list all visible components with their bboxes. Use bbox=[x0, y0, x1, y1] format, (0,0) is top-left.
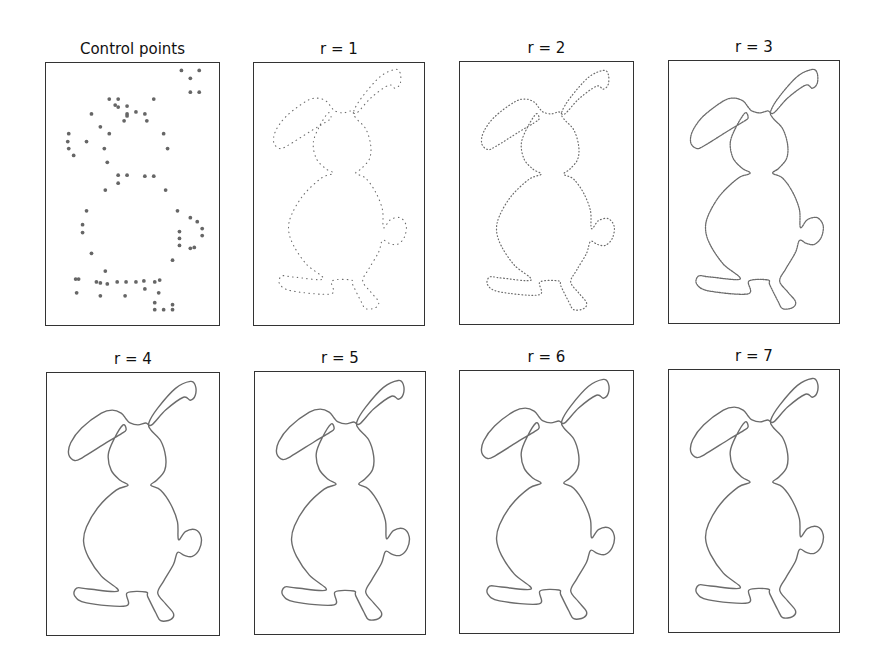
control-point bbox=[90, 112, 94, 116]
control-point bbox=[85, 140, 89, 144]
control-point bbox=[103, 188, 107, 192]
plot-frame bbox=[45, 62, 220, 326]
control-point bbox=[157, 291, 161, 295]
control-point bbox=[125, 114, 129, 118]
control-point bbox=[116, 181, 120, 185]
plot-frame bbox=[253, 62, 425, 326]
plot-frame bbox=[46, 372, 220, 636]
panel-r5: r = 5 bbox=[254, 349, 426, 635]
control-point bbox=[195, 220, 199, 224]
control-point bbox=[142, 279, 146, 283]
control-point bbox=[105, 282, 109, 286]
control-point bbox=[125, 104, 129, 108]
control-point bbox=[122, 119, 126, 123]
panel-control-points: Control points bbox=[45, 40, 220, 326]
control-point bbox=[81, 231, 85, 235]
rabbit-curve-plot bbox=[460, 62, 633, 324]
control-point bbox=[102, 147, 106, 151]
rabbit-curve-plot bbox=[669, 61, 839, 323]
panel-title: r = 7 bbox=[668, 347, 840, 365]
rabbit-curve-plot bbox=[460, 371, 633, 633]
rabbit-outline bbox=[273, 69, 406, 309]
control-point bbox=[90, 251, 94, 255]
control-point bbox=[81, 223, 85, 227]
panel-title: r = 2 bbox=[459, 39, 634, 57]
control-point bbox=[67, 132, 71, 136]
control-point bbox=[178, 244, 182, 248]
rabbit-outline bbox=[481, 379, 614, 619]
control-point bbox=[98, 281, 102, 285]
panel-r1: r = 1 bbox=[253, 40, 425, 326]
control-point bbox=[75, 291, 79, 295]
control-point bbox=[188, 90, 192, 94]
control-point bbox=[152, 174, 156, 178]
panel-r2: r = 2 bbox=[459, 39, 634, 325]
rabbit-curve-plot bbox=[254, 63, 424, 325]
control-point bbox=[95, 280, 99, 284]
rabbit-outline bbox=[276, 380, 409, 620]
control-point bbox=[200, 234, 204, 238]
control-point bbox=[125, 173, 129, 177]
control-point bbox=[171, 303, 175, 307]
rabbit-outline bbox=[481, 70, 614, 310]
control-point bbox=[153, 308, 157, 312]
control-point bbox=[176, 209, 180, 213]
control-point bbox=[143, 112, 147, 116]
rabbit-curve-plot bbox=[255, 372, 425, 634]
panel-title: Control points bbox=[45, 40, 220, 58]
plot-frame bbox=[668, 369, 840, 633]
control-point bbox=[103, 269, 107, 273]
panel-title: r = 3 bbox=[668, 38, 840, 56]
control-point bbox=[197, 69, 201, 73]
control-point bbox=[162, 308, 166, 312]
control-point bbox=[166, 147, 170, 151]
control-point bbox=[188, 216, 192, 220]
control-point bbox=[115, 280, 119, 284]
control-point bbox=[145, 119, 149, 123]
control-point bbox=[152, 97, 156, 101]
panel-title: r = 1 bbox=[253, 40, 425, 58]
panel-r7: r = 7 bbox=[668, 347, 840, 633]
control-point bbox=[158, 278, 162, 282]
control-point bbox=[67, 147, 71, 151]
panel-r6: r = 6 bbox=[459, 348, 634, 634]
panel-title: r = 4 bbox=[46, 350, 220, 368]
control-point bbox=[197, 90, 201, 94]
control-point bbox=[192, 246, 196, 250]
control-points-plot bbox=[46, 63, 219, 325]
control-point bbox=[143, 287, 147, 291]
control-point bbox=[134, 280, 138, 284]
control-point bbox=[116, 173, 120, 177]
control-point bbox=[123, 294, 127, 298]
control-point bbox=[116, 97, 120, 101]
control-point bbox=[72, 154, 76, 158]
control-point bbox=[188, 76, 192, 80]
control-point bbox=[134, 110, 138, 114]
control-point bbox=[171, 258, 175, 262]
control-point bbox=[153, 301, 157, 305]
control-point bbox=[200, 227, 204, 231]
control-point bbox=[124, 280, 128, 284]
rabbit-outline bbox=[690, 69, 823, 309]
plot-frame bbox=[254, 371, 426, 635]
plot-frame bbox=[668, 60, 840, 324]
control-point bbox=[153, 280, 157, 284]
control-point bbox=[116, 105, 120, 109]
panel-r3: r = 3 bbox=[668, 38, 840, 324]
plot-frame bbox=[459, 370, 634, 634]
control-point bbox=[107, 97, 111, 101]
control-point bbox=[171, 308, 175, 312]
control-point bbox=[66, 140, 70, 144]
control-point bbox=[98, 294, 102, 298]
rabbit-curve-plot bbox=[669, 370, 839, 632]
control-point bbox=[178, 237, 182, 241]
control-point bbox=[164, 188, 168, 192]
control-point bbox=[143, 174, 147, 178]
plot-frame bbox=[459, 61, 634, 325]
rabbit-outline bbox=[68, 381, 201, 621]
control-point bbox=[77, 277, 81, 281]
control-point bbox=[85, 209, 89, 213]
control-point bbox=[107, 132, 111, 136]
control-point bbox=[105, 160, 109, 164]
panel-title: r = 5 bbox=[254, 349, 426, 367]
